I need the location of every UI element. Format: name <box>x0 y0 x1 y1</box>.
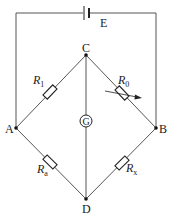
node-D <box>84 197 88 201</box>
node-label-A: A <box>5 122 14 136</box>
node-label-D: D <box>82 202 91 216</box>
label-lower-left-resistor: Ra <box>36 162 48 178</box>
label-upper-left-resistor: R1 <box>32 73 44 89</box>
node-label-B: B <box>159 122 167 136</box>
battery-label: E <box>100 16 107 30</box>
circuit-diagram: E G R1 R0 Ra Rx C A B D <box>0 0 177 220</box>
node-A <box>14 126 18 130</box>
label-upper-right-resistor: R0 <box>117 73 129 89</box>
galvanometer-label: G <box>82 116 89 127</box>
node-label-C: C <box>82 41 90 55</box>
node-B <box>154 126 158 130</box>
label-lower-right-resistor: Rx <box>125 161 137 177</box>
resistor-lower-left <box>43 155 57 169</box>
rheostat-arrow-head-icon <box>135 95 143 100</box>
resistor-upper-left <box>43 85 57 99</box>
